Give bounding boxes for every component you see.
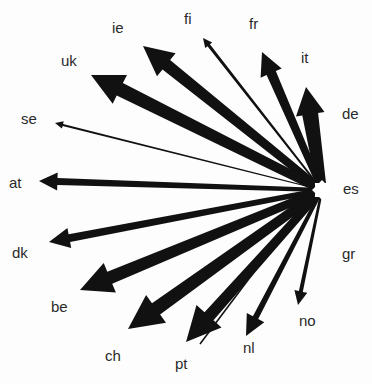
flow-diagram: deitfrfiieukseatdkbechptnlnogr es [0, 0, 372, 384]
country-label-gr: gr [342, 246, 355, 261]
country-label-de: de [342, 106, 359, 121]
flow-arrow-at [39, 173, 322, 193]
country-label-nl: nl [243, 340, 255, 355]
country-label-fr: fr [249, 16, 258, 31]
country-label-ch: ch [105, 348, 121, 363]
hub-node-es [312, 180, 332, 200]
country-label-fi: fi [184, 11, 192, 26]
country-label-dk: dk [12, 245, 28, 260]
hub-label-es: es [343, 181, 359, 196]
country-label-be: be [51, 299, 68, 314]
country-label-uk: uk [61, 53, 77, 68]
country-label-pt: pt [175, 356, 188, 371]
country-label-no: no [299, 313, 316, 328]
country-label-at: at [9, 175, 22, 190]
flow-arrows [0, 0, 372, 384]
country-label-ie: ie [112, 20, 124, 35]
country-label-se: se [21, 111, 37, 126]
country-label-it: it [301, 50, 309, 65]
